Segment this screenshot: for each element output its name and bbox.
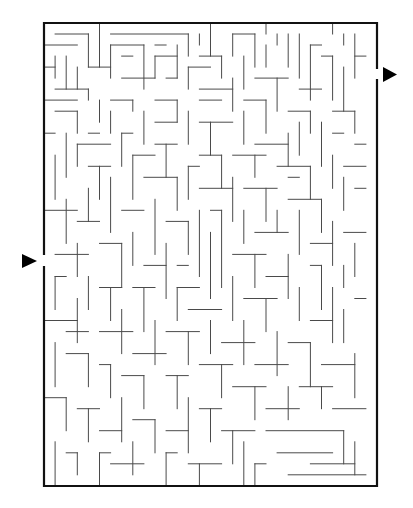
exit-arrow-icon bbox=[383, 67, 397, 82]
maze bbox=[0, 0, 413, 508]
entrance-arrow-icon bbox=[22, 254, 37, 268]
maze-walls bbox=[44, 23, 366, 486]
